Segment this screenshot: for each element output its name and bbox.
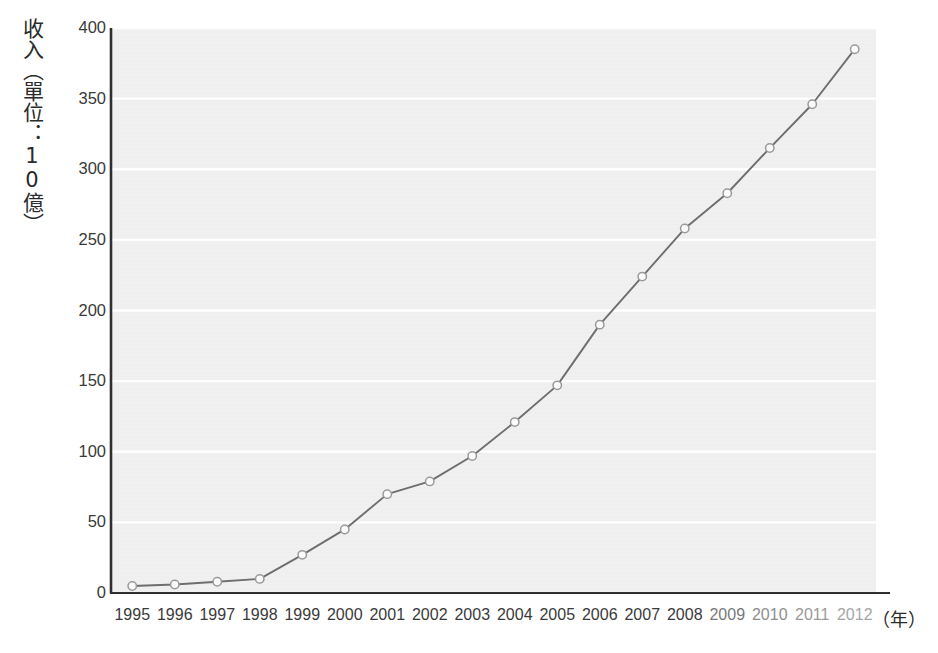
x-tick-label: 2009 [709,606,745,624]
x-tick-label: 1995 [114,606,150,624]
x-tick-label: 1997 [199,606,235,624]
x-tick-label: 1998 [242,606,278,624]
x-tick-label: 2012 [837,606,873,624]
x-tick-label: 2002 [412,606,448,624]
x-tick-label: 1999 [284,606,320,624]
x-tick-label: 2003 [454,606,490,624]
chart-container: 收入（單位：10億） 050100150200250300350400 1995… [0,0,938,653]
x-tick-label: 2001 [369,606,405,624]
x-tick-label: 2004 [497,606,533,624]
x-tick-label: 2011 [795,606,829,624]
x-tick-label: 1996 [157,606,193,624]
x-axis-tick-labels: 1995199619971998199920002001200220032004… [0,0,938,653]
x-tick-label: 2007 [624,606,660,624]
x-tick-label: 2000 [327,606,363,624]
x-tick-label: 2006 [582,606,618,624]
x-axis-title: （年） [872,605,926,631]
x-tick-label: 2005 [539,606,575,624]
x-tick-label: 2008 [667,606,703,624]
x-tick-label: 2010 [752,606,788,624]
